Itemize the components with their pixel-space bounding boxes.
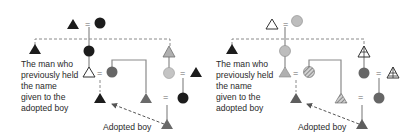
- label-line: adopted boy: [21, 103, 101, 114]
- female-black-circle-icon: [178, 93, 189, 104]
- kinship-diagram-right: = = = = The man who previously: [210, 0, 420, 137]
- female-hatched-circle-icon: [304, 67, 315, 78]
- svg-text:=: =: [358, 92, 363, 102]
- label-line: previously held: [21, 70, 101, 81]
- male-black-triangle-icon: [67, 19, 79, 29]
- female-black-circle-icon: [84, 46, 95, 57]
- female-lightgray-circle-icon: [164, 68, 175, 79]
- male-black-triangle-icon: [29, 44, 41, 54]
- svg-text:=: =: [85, 19, 90, 29]
- male-gray-triangle-icon: [140, 93, 152, 103]
- svg-text:=: =: [180, 68, 185, 78]
- adoption-arrow: [307, 104, 359, 124]
- adopted-boy-label: Adopted boy: [298, 122, 346, 133]
- svg-text:=: =: [376, 68, 381, 78]
- svg-text:=: =: [283, 19, 288, 29]
- previous-name-holder-label: The man who previously held the name giv…: [21, 59, 101, 114]
- male-black-triangle-icon: [190, 67, 202, 77]
- label-line: previously held: [216, 70, 296, 81]
- female-black-circle-icon: [95, 18, 106, 29]
- male-black-triangle-icon: [226, 44, 238, 54]
- adopted-boy-label: Adopted boy: [103, 122, 151, 133]
- male-crosshatched-triangle-icon: [387, 67, 399, 78]
- kinship-diagram-left: = = = = The man who previously held the …: [0, 0, 210, 137]
- male-hatched-triangle-icon: [335, 93, 347, 103]
- female-darkgray-circle-icon: [374, 93, 385, 104]
- adoption-arrow: [112, 104, 164, 124]
- label-line: given to the: [21, 92, 101, 103]
- label-line: given to the: [216, 92, 296, 103]
- label-line: the name: [216, 81, 296, 92]
- label-line: the name: [21, 81, 101, 92]
- label-line: adopted boy: [216, 103, 296, 114]
- female-darkgray-circle-icon: [359, 68, 370, 79]
- female-darkgray-circle-icon: [107, 67, 118, 78]
- label-line: The man who: [21, 59, 101, 70]
- male-white-triangle-icon: [266, 19, 278, 29]
- female-lightgray-circle-icon: [292, 16, 303, 27]
- previous-name-holder-label: The man who previously held the name giv…: [216, 59, 296, 114]
- svg-text:=: =: [163, 92, 168, 102]
- female-lightgray-circle-icon: [280, 46, 291, 57]
- label-line: The man who: [216, 59, 296, 70]
- male-gray-triangle-icon: [163, 46, 175, 57]
- male-crosshatched-triangle-icon: [358, 46, 370, 57]
